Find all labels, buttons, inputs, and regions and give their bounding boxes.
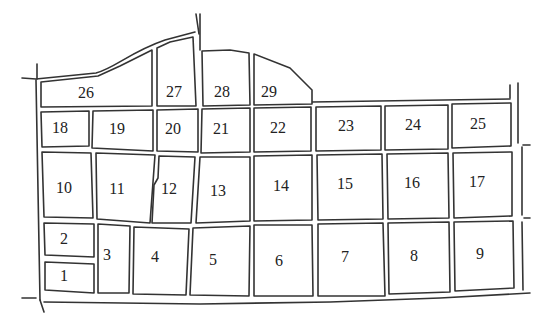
block-label: 15	[337, 175, 353, 192]
block-27: 27	[157, 37, 196, 106]
block-outline	[388, 222, 450, 294]
block-outline	[41, 50, 152, 107]
block-label: 24	[405, 116, 421, 133]
block-label: 14	[273, 177, 289, 194]
block-label: 5	[209, 251, 217, 268]
block-7: 7	[318, 223, 385, 296]
block-12: 12	[152, 156, 195, 223]
block-label: 16	[404, 174, 420, 191]
block-10: 10	[42, 152, 93, 218]
block-21: 21	[201, 108, 250, 153]
block-label: 22	[270, 119, 286, 136]
block-label: 6	[275, 252, 283, 269]
block-label: 2	[60, 230, 68, 247]
block-label: 7	[341, 248, 349, 265]
block-outline	[133, 227, 189, 295]
block-19: 19	[92, 110, 153, 151]
block-outline	[45, 262, 94, 293]
block-label: 18	[52, 119, 68, 136]
block-17: 17	[453, 152, 512, 218]
block-label: 11	[109, 180, 124, 197]
block-label: 1	[60, 267, 68, 284]
block-1: 1	[45, 262, 94, 293]
block-label: 20	[165, 120, 181, 137]
block-5: 5	[190, 226, 250, 296]
block-15: 15	[317, 154, 383, 220]
block-outline	[318, 223, 385, 296]
block-6: 6	[254, 225, 313, 296]
block-label: 27	[166, 83, 182, 100]
block-22: 22	[254, 107, 311, 152]
block-label: 10	[56, 179, 72, 196]
block-20: 20	[157, 109, 198, 152]
block-18: 18	[41, 111, 89, 147]
block-9: 9	[454, 221, 514, 291]
block-label: 23	[338, 117, 354, 134]
block-label: 3	[103, 246, 111, 263]
block-label: 28	[214, 83, 230, 100]
block-8: 8	[388, 222, 450, 294]
block-24: 24	[385, 105, 448, 150]
block-4: 4	[133, 227, 189, 295]
block-outline	[254, 225, 313, 296]
block-label: 9	[476, 245, 484, 262]
block-label: 8	[410, 247, 418, 264]
block-label: 29	[261, 83, 277, 100]
block-14: 14	[254, 155, 312, 221]
block-outline	[96, 153, 155, 223]
road-west-boundary-outer	[36, 80, 40, 300]
block-outline	[454, 221, 514, 291]
road-north-boundary-east	[312, 99, 510, 102]
block-25: 25	[452, 103, 511, 148]
block-outline	[44, 223, 94, 257]
block-16: 16	[387, 153, 449, 219]
block-label: 4	[151, 248, 159, 265]
block-29: 29	[254, 54, 312, 105]
block-label: 19	[109, 120, 125, 137]
block-label: 13	[210, 182, 226, 199]
block-label: 21	[213, 120, 229, 137]
block-label: 26	[78, 84, 94, 101]
block-label: 17	[469, 173, 485, 190]
road-east-road-vertical-3	[522, 222, 523, 290]
block-outline	[190, 226, 250, 296]
block-3: 3	[98, 224, 130, 293]
parcel-map: 1234567891011121314151617181920212223242…	[0, 0, 550, 323]
block-label: 25	[470, 115, 486, 132]
block-23: 23	[316, 106, 381, 151]
block-11: 11	[96, 153, 155, 223]
block-26: 26	[41, 50, 152, 107]
road-central-vertical-top	[196, 14, 199, 34]
block-2: 2	[44, 223, 94, 257]
block-28: 28	[202, 50, 250, 106]
block-label: 12	[161, 180, 177, 197]
block-13: 13	[196, 157, 250, 223]
blocks-layer: 1234567891011121314151617181920212223242…	[41, 37, 514, 296]
